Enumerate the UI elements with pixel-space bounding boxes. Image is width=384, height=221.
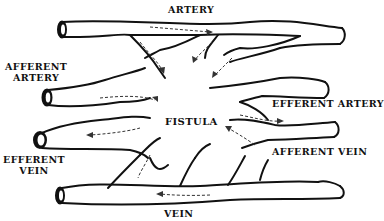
arrow-head-icon xyxy=(212,71,218,78)
arrow-head-icon xyxy=(86,132,93,138)
label-afferent-artery-line1: AFFERENT xyxy=(5,61,67,72)
label-efferent-vein-line2: VEIN xyxy=(3,165,65,176)
label-afferent-artery: AFFERENT ARTERY xyxy=(5,61,67,83)
label-efferent-vein: EFFERENT VEIN xyxy=(3,154,65,176)
arrow-head-icon xyxy=(156,191,163,197)
label-vein: VEIN xyxy=(164,208,193,219)
vein-flow xyxy=(160,194,210,195)
label-afferent-artery-line2: ARTERY xyxy=(5,72,67,83)
label-efferent-artery: EFFERENT ARTERY xyxy=(272,98,384,109)
afferent-vein-flow xyxy=(228,128,255,145)
arrow-heads xyxy=(86,29,284,197)
arrow-head-icon xyxy=(277,118,284,124)
flow-arrows xyxy=(90,27,280,195)
artery-vessel xyxy=(58,21,345,78)
artery-flow-arrow xyxy=(150,27,210,32)
label-afferent-vein: AFFERENT VEIN xyxy=(272,146,367,157)
artery-branch-flow-right xyxy=(215,58,232,75)
efferent-vein-flow xyxy=(90,128,140,135)
arrow-head-icon xyxy=(152,96,158,102)
afferent-vein-vessel xyxy=(230,119,339,148)
artery-branch-flow-left xyxy=(140,42,162,70)
label-artery: ARTERY xyxy=(168,4,214,15)
label-fistula: FISTULA xyxy=(165,116,218,127)
arrow-head-icon xyxy=(225,126,232,132)
label-efferent-vein-line1: EFFERENT xyxy=(3,154,65,165)
